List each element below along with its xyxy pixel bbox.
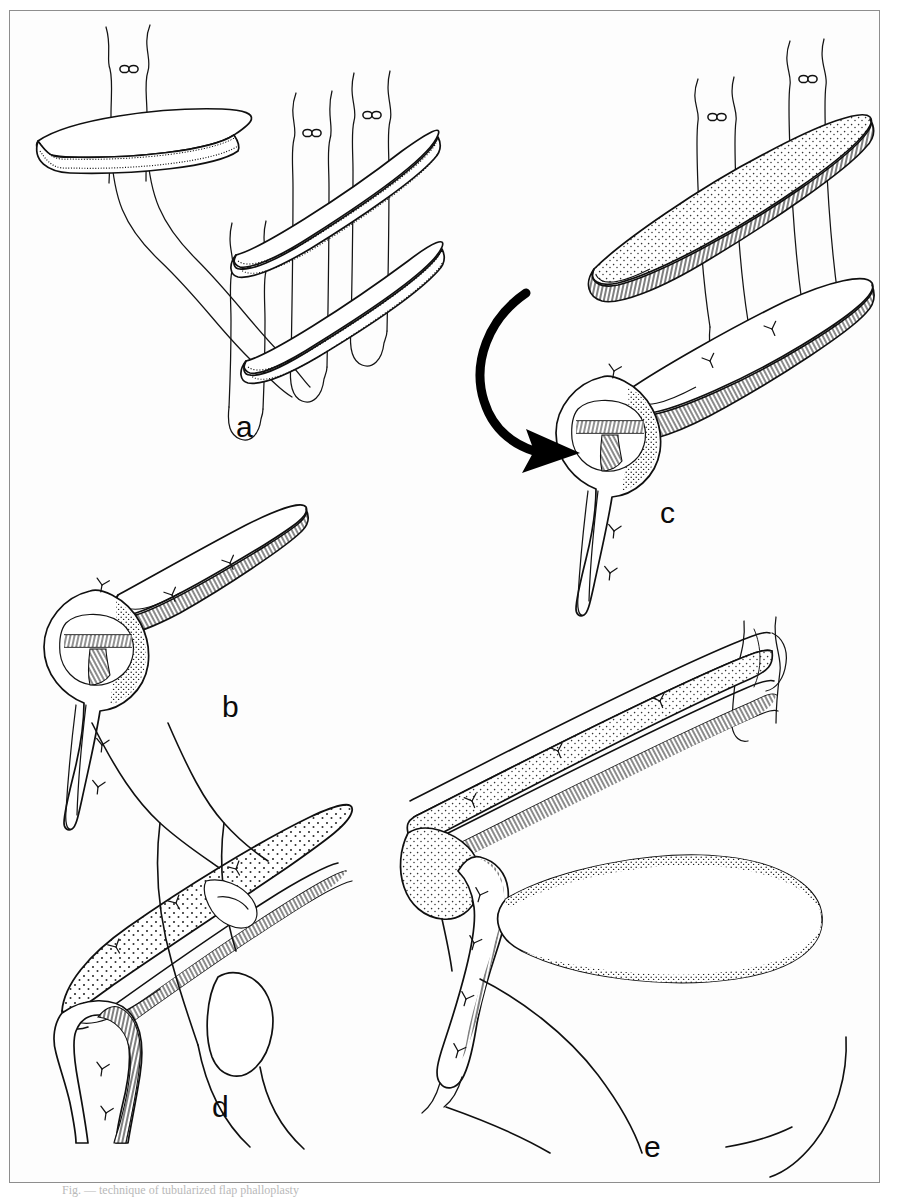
thigh-contour-e-1	[480, 979, 642, 1153]
caption-strip: Fig. — technique of tubularized flap pha…	[0, 1185, 898, 1198]
abdominal-contour-e-1	[92, 723, 218, 867]
flap-e-stippled-band	[407, 650, 772, 841]
abdominal-contour-e-2	[168, 723, 268, 861]
scrotum-contour-e-2	[260, 1067, 304, 1149]
suture-knot-icon	[708, 113, 726, 120]
scrotal-flap-e	[498, 855, 822, 982]
stitch-mark-icon	[607, 524, 621, 538]
shaft-e-dorsal-line	[410, 633, 770, 802]
panel-e-artwork	[92, 617, 846, 1177]
panel-a-artwork	[37, 25, 444, 440]
suture-e-2	[775, 617, 780, 723]
suture-knot-icon	[799, 75, 817, 82]
panel-label-b: b	[222, 692, 239, 722]
suture-e-1-tip	[732, 727, 748, 741]
stitch-mark-icon	[99, 1106, 113, 1121]
suture-knot-icon	[120, 65, 138, 72]
flap-a-transposed	[37, 109, 252, 174]
flap-a-upper-right	[231, 130, 440, 277]
thigh-contour-e-2	[446, 1107, 550, 1153]
contour-stub-e	[726, 1127, 792, 1147]
figure-caption: Fig. — technique of tubularized flap pha…	[62, 1185, 299, 1198]
surgical-illustration-artwork	[10, 11, 881, 1184]
flap-b-shaft	[109, 505, 308, 634]
panel-d-artwork	[54, 805, 352, 1143]
thigh-contour-e-3	[770, 1037, 846, 1177]
suture-knot-icon	[303, 129, 321, 136]
flap-d-outer-stippled	[62, 805, 352, 1029]
stitch-mark-icon	[91, 780, 105, 794]
neourethra-tube-c	[556, 364, 661, 616]
panel-label-d: d	[212, 1092, 229, 1122]
flap-c-upper-stippled	[588, 115, 873, 302]
figure-frame	[9, 10, 880, 1183]
figure-root: a b c d e Fig. — technique of tubularize…	[0, 0, 898, 1198]
panel-label-a: a	[236, 412, 253, 442]
panel-label-c: c	[660, 498, 675, 528]
panel-b-artwork	[44, 505, 308, 830]
stitch-mark-icon	[95, 1062, 109, 1077]
panel-c-artwork	[480, 39, 874, 616]
figure-canvas	[10, 11, 881, 1184]
panel-label-e: e	[644, 1132, 661, 1162]
stitch-mark-icon	[603, 566, 617, 580]
flap-c-lower	[624, 279, 874, 440]
testis-e	[207, 973, 273, 1076]
suture-knot-icon	[363, 111, 381, 118]
flap-e-inner-layers	[428, 680, 778, 867]
